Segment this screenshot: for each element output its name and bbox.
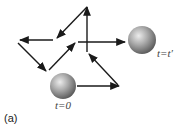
end-particle [128, 26, 156, 54]
random-walk-diagram [0, 0, 192, 127]
step-arrow-2 [89, 54, 118, 85]
step-arrow-6 [18, 43, 46, 71]
start-particle [50, 73, 76, 99]
end-time-label: t=t′ [157, 48, 173, 59]
step-arrow-4 [57, 7, 87, 38]
start-time-label: t=0 [55, 100, 71, 111]
step-arrow-7 [49, 43, 75, 70]
panel-label: (a) [4, 113, 17, 124]
path-arrows [18, 7, 125, 86]
